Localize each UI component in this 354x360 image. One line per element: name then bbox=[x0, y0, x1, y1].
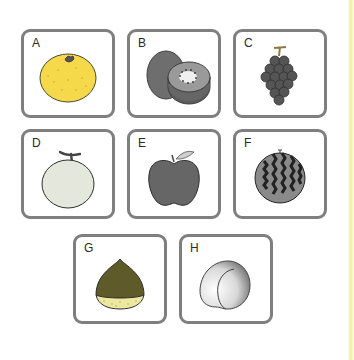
card-a-orange[interactable]: A bbox=[21, 29, 115, 118]
card-e-apple[interactable]: E bbox=[127, 129, 221, 219]
watermelon-icon bbox=[236, 132, 324, 216]
card-d-melon[interactable]: D bbox=[21, 129, 115, 219]
card-c-grapes[interactable]: C bbox=[233, 29, 327, 118]
card-b-kiwi[interactable]: B bbox=[127, 29, 221, 118]
card-f-watermelon[interactable]: F bbox=[233, 129, 327, 219]
kiwi-icon bbox=[130, 32, 218, 115]
card-g-chestnut[interactable]: G bbox=[73, 234, 167, 324]
melon-icon bbox=[24, 132, 112, 216]
grapes-icon bbox=[236, 32, 324, 115]
peach-icon bbox=[182, 237, 270, 321]
page-edge-strip bbox=[348, 0, 354, 360]
apple-icon bbox=[130, 132, 218, 216]
chestnut-icon bbox=[76, 237, 164, 321]
orange-icon bbox=[24, 32, 112, 115]
card-h-peach[interactable]: H bbox=[179, 234, 273, 324]
